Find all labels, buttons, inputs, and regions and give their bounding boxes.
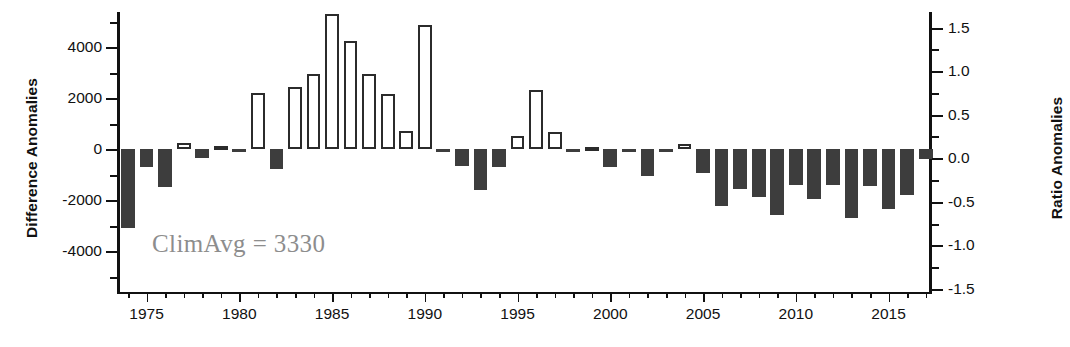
bar-1984 — [307, 74, 321, 149]
bar-1983 — [288, 87, 302, 149]
x-tick-minor — [759, 292, 761, 298]
x-tick-minor — [184, 292, 186, 298]
x-tick-minor — [536, 292, 538, 298]
x-tick-minor — [462, 292, 464, 298]
bar-2008 — [752, 149, 766, 197]
x-tick-minor — [833, 292, 835, 298]
bar-1991 — [436, 149, 450, 152]
bar-1993 — [474, 149, 488, 190]
bar-1997 — [548, 132, 562, 149]
bar-2017 — [919, 149, 933, 159]
y-tick-minor-right — [932, 136, 939, 138]
x-tick-label: 2010 — [779, 306, 813, 322]
y-tick-right — [932, 28, 943, 30]
y-tick-right — [932, 115, 943, 117]
y-axis-left-spine — [117, 12, 120, 294]
bar-1990 — [418, 25, 432, 149]
x-tick-label: 1975 — [129, 306, 163, 322]
x-tick-major — [703, 292, 705, 302]
bar-2009 — [770, 149, 784, 215]
x-tick-minor — [907, 292, 909, 298]
x-tick-label: 1990 — [408, 306, 442, 322]
x-tick-minor — [870, 292, 872, 298]
x-tick-label: 2015 — [871, 306, 905, 322]
y-tick-minor-left — [110, 22, 117, 24]
y-tick-label-left: -4000 — [32, 243, 102, 259]
x-tick-minor — [165, 292, 167, 298]
y-tick-minor-left — [110, 124, 117, 126]
y-tick-label-left: 2000 — [32, 90, 102, 106]
x-tick-minor — [814, 292, 816, 298]
x-tick-minor — [295, 292, 297, 298]
x-tick-label: 2000 — [593, 306, 627, 322]
bar-2003 — [659, 149, 673, 152]
y-tick-label-right: -1.0 — [948, 237, 975, 253]
bar-2005 — [696, 149, 710, 173]
y-tick-minor-right — [932, 93, 939, 95]
x-tick-minor — [369, 292, 371, 298]
y-tick-left — [106, 251, 117, 253]
x-tick-minor — [221, 292, 223, 298]
bar-1987 — [362, 74, 376, 149]
y-axis-title-right: Ratio Anomalies — [1048, 58, 1066, 258]
y-tick-label-right: 0.0 — [948, 150, 970, 166]
bar-2011 — [807, 149, 821, 199]
y-tick-label-right: -1.5 — [948, 281, 975, 297]
y-axis-title-left: Difference Anomalies — [23, 53, 41, 263]
y-tick-left — [106, 200, 117, 202]
bar-2016 — [900, 149, 914, 195]
caption-fragment — [2, 332, 332, 346]
x-tick-minor — [777, 292, 779, 298]
x-tick-minor — [480, 292, 482, 298]
bar-1999 — [585, 147, 599, 151]
x-tick-minor — [314, 292, 316, 298]
x-tick-minor — [351, 292, 353, 298]
y-tick-minor-left — [110, 73, 117, 75]
bar-1978 — [195, 149, 209, 158]
y-tick-label-right: -0.5 — [948, 194, 975, 210]
x-tick-label: 2005 — [686, 306, 720, 322]
y-tick-label-left: 4000 — [32, 39, 102, 55]
y-tick-label-left: 0 — [32, 141, 102, 157]
y-tick-label-right: 1.0 — [948, 63, 970, 79]
x-tick-minor — [258, 292, 260, 298]
y-tick-label-right: 1.5 — [948, 20, 970, 36]
x-tick-major — [239, 292, 241, 302]
y-tick-label-left: -2000 — [32, 192, 102, 208]
y-tick-right — [932, 245, 943, 247]
y-tick-left — [106, 149, 117, 151]
bar-1985 — [325, 14, 339, 149]
x-tick-minor — [573, 292, 575, 298]
y-tick-right — [932, 71, 943, 73]
bar-2004 — [678, 144, 692, 149]
x-tick-minor — [443, 292, 445, 298]
x-tick-label: 1980 — [222, 306, 256, 322]
bar-2013 — [845, 149, 859, 218]
x-tick-minor — [685, 292, 687, 298]
y-tick-minor-left — [110, 277, 117, 279]
bar-1992 — [455, 149, 469, 166]
bar-1976 — [158, 149, 172, 187]
x-tick-label: 1995 — [500, 306, 534, 322]
y-tick-right — [932, 289, 943, 291]
x-tick-minor — [276, 292, 278, 298]
bar-1982 — [270, 149, 284, 169]
bar-2007 — [733, 149, 747, 189]
x-tick-major — [425, 292, 427, 302]
x-tick-major — [889, 292, 891, 302]
x-tick-minor — [629, 292, 631, 298]
bar-1986 — [344, 41, 358, 149]
x-tick-minor — [128, 292, 130, 298]
x-tick-minor — [666, 292, 668, 298]
x-tick-major — [796, 292, 798, 302]
bar-1996 — [529, 90, 543, 149]
bar-2015 — [882, 149, 896, 209]
y-tick-minor-left — [110, 226, 117, 228]
x-tick-minor — [499, 292, 501, 298]
x-tick-minor — [202, 292, 204, 298]
x-tick-major — [147, 292, 149, 302]
y-tick-label-right: 0.5 — [948, 107, 970, 123]
bar-2006 — [715, 149, 729, 206]
x-tick-minor — [592, 292, 594, 298]
x-tick-label: 1985 — [315, 306, 349, 322]
